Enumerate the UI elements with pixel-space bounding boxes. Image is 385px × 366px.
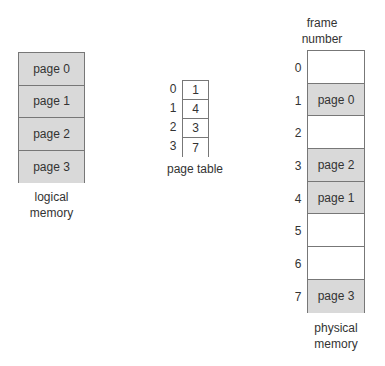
frame-1: page 0 xyxy=(308,84,364,117)
frame-0 xyxy=(308,51,364,84)
frame-3: page 2 xyxy=(308,149,364,182)
frame-number-2: 2 xyxy=(292,126,304,140)
logical-memory: page 0 page 1 page 2 page 3 xyxy=(18,52,85,183)
frame-number-header-line1: frame xyxy=(293,15,351,31)
frame-number-6: 6 xyxy=(292,257,304,271)
physical-memory-label-line2: memory xyxy=(302,336,370,352)
logical-page-2: page 2 xyxy=(19,118,84,151)
frame-number-5: 5 xyxy=(292,224,304,238)
physical-memory-label-line1: physical xyxy=(302,320,370,336)
frame-7: page 3 xyxy=(308,280,364,313)
frame-number-header-line2: number xyxy=(293,31,351,47)
physical-memory: page 0 page 2 page 1 page 3 xyxy=(307,50,365,313)
page-table-entry-3: 7 xyxy=(183,138,208,157)
page-table-index-3: 3 xyxy=(167,139,179,153)
page-table-index-0: 0 xyxy=(167,82,179,96)
page-table-entry-1: 4 xyxy=(183,100,208,119)
logical-page-3: page 3 xyxy=(19,151,84,184)
frame-number-3: 3 xyxy=(292,159,304,173)
frame-number-header: frame number xyxy=(293,15,351,47)
page-table: 1 4 3 7 xyxy=(182,80,209,157)
page-table-index-2: 2 xyxy=(167,120,179,134)
logical-memory-label: logical memory xyxy=(18,189,85,221)
frame-number-1: 1 xyxy=(292,94,304,108)
frame-5 xyxy=(308,214,364,247)
logical-memory-label-line2: memory xyxy=(18,205,85,221)
logical-memory-label-line1: logical xyxy=(18,189,85,205)
logical-page-1: page 1 xyxy=(19,86,84,119)
frame-6 xyxy=(308,247,364,280)
page-table-entry-2: 3 xyxy=(183,119,208,138)
frame-2 xyxy=(308,116,364,149)
page-table-entry-0: 1 xyxy=(183,81,208,100)
frame-number-7: 7 xyxy=(292,290,304,304)
logical-page-0: page 0 xyxy=(19,53,84,86)
page-table-index-1: 1 xyxy=(167,101,179,115)
frame-number-0: 0 xyxy=(292,61,304,75)
page-table-label: page table xyxy=(160,161,230,177)
frame-number-4: 4 xyxy=(292,192,304,206)
frame-4: page 1 xyxy=(308,182,364,215)
physical-memory-label: physical memory xyxy=(302,320,370,352)
